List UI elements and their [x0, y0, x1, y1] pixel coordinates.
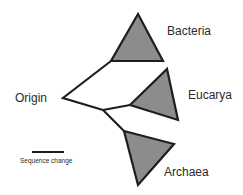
- branch-origin-bacteria: [63, 61, 111, 110]
- origin-label: Origin: [15, 91, 47, 105]
- branch-node-eucarya: [103, 105, 130, 110]
- eucarya-clade-triangle: [130, 69, 178, 120]
- archaea-label: Archaea: [164, 165, 209, 179]
- tree-of-life-diagram: Bacteria Eucarya Archaea Origin Sequence…: [0, 0, 243, 195]
- eucarya-label: Eucarya: [188, 88, 232, 102]
- scale-bar-label: Sequence change: [20, 157, 72, 164]
- bacteria-clade-triangle: [111, 14, 163, 61]
- bacteria-label: Bacteria: [167, 24, 211, 38]
- branch-node-archaea: [103, 110, 124, 131]
